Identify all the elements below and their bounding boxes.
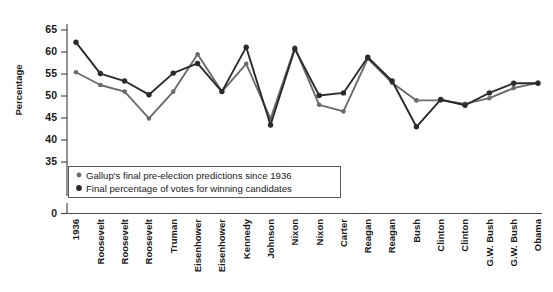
x-tick-label: Nixon bbox=[289, 219, 300, 246]
y-tick-zero-label: 0 bbox=[51, 207, 57, 219]
final-vote-point bbox=[171, 70, 176, 75]
x-tick-label: Roosevelt bbox=[143, 218, 154, 264]
legend: Gallup's final pre-election predictions … bbox=[69, 167, 341, 198]
y-tick-label-45: 45 bbox=[45, 111, 57, 123]
x-tick-label: Nixon bbox=[314, 219, 325, 246]
gallup-prediction-point bbox=[414, 98, 419, 103]
final-vote-point bbox=[341, 90, 346, 95]
final-vote-point bbox=[98, 71, 103, 76]
x-tick-label: Eisenhower bbox=[216, 219, 227, 273]
legend-marker-final-vote bbox=[76, 185, 82, 191]
gallup-prediction-point bbox=[341, 109, 346, 114]
x-tick-label: Johnson bbox=[265, 219, 276, 259]
gallup-prediction-point bbox=[195, 52, 200, 57]
line-chart: Percentage 35404550556065 0 Gallup's fin… bbox=[0, 0, 553, 292]
final-vote-point bbox=[511, 81, 516, 86]
x-tick-label: Kennedy bbox=[241, 218, 252, 259]
gallup-prediction-point bbox=[244, 62, 249, 67]
y-axis-title: Percentage bbox=[13, 64, 24, 115]
final-vote-point bbox=[195, 61, 200, 66]
gallup-prediction-point bbox=[487, 96, 492, 101]
x-tick-label: Roosevelt bbox=[119, 218, 130, 264]
y-axis-title-text: Percentage bbox=[13, 64, 24, 115]
x-tick-label: Clinton bbox=[459, 219, 470, 252]
gallup-prediction-point bbox=[98, 83, 103, 88]
final-vote-point bbox=[268, 122, 273, 127]
gallup-prediction-point bbox=[147, 116, 152, 121]
gallup-prediction-point bbox=[171, 89, 176, 94]
gallup-prediction-point bbox=[511, 86, 516, 91]
x-tick-label: Eisenhower bbox=[192, 219, 203, 273]
legend-label-gallup-prediction: Gallup's final pre-election predictions … bbox=[86, 170, 292, 181]
x-tick-label: Reagan bbox=[387, 219, 398, 254]
final-vote-point bbox=[244, 44, 249, 49]
final-vote-point bbox=[292, 46, 297, 51]
gallup-prediction-point bbox=[122, 89, 127, 94]
final-vote-point bbox=[389, 78, 394, 83]
x-tick-label: Truman bbox=[168, 219, 179, 254]
x-tick-label: Obama bbox=[532, 218, 543, 251]
chart-container: Percentage 35404550556065 0 Gallup's fin… bbox=[0, 0, 553, 292]
gallup-prediction-point bbox=[74, 70, 79, 75]
y-tick-label-35: 35 bbox=[45, 155, 57, 167]
x-tick-label: Roosevelt bbox=[95, 218, 106, 264]
final-vote-point bbox=[438, 97, 443, 102]
series-group bbox=[73, 40, 540, 130]
final-vote-point bbox=[73, 40, 78, 45]
x-tick-label: G.W. Bush bbox=[508, 219, 519, 267]
final-vote-point bbox=[122, 78, 127, 83]
final-vote-point bbox=[146, 92, 151, 97]
final-vote-point bbox=[316, 93, 321, 98]
y-tick-label-65: 65 bbox=[45, 23, 57, 35]
y-tick-label-55: 55 bbox=[45, 67, 57, 79]
x-tick-group: 1936RooseveltRooseveltRooseveltTrumanEis… bbox=[70, 218, 543, 272]
x-tick-label: Bush bbox=[411, 219, 422, 243]
final-vote-point bbox=[487, 90, 492, 95]
x-tick-label: G.W. Bush bbox=[484, 219, 495, 267]
gallup-prediction-point bbox=[317, 103, 322, 108]
y-tick-group: 35404550556065 bbox=[45, 23, 67, 167]
x-tick-label: 1936 bbox=[70, 219, 81, 240]
legend-marker-gallup-prediction bbox=[77, 173, 82, 178]
x-tick-label: Clinton bbox=[435, 219, 446, 252]
final-vote-point bbox=[219, 89, 224, 94]
y-tick-label-40: 40 bbox=[45, 133, 57, 145]
gallup-prediction-line bbox=[76, 48, 538, 119]
x-tick-label: Carter bbox=[338, 219, 349, 247]
final-vote-point bbox=[365, 55, 370, 60]
y-axis-zero: 0 bbox=[51, 207, 67, 219]
x-tick-label: Reagan bbox=[362, 219, 373, 254]
final-vote-point bbox=[535, 81, 540, 86]
final-vote-point bbox=[414, 124, 419, 129]
final-vote-point bbox=[462, 103, 467, 108]
legend-label-final-vote: Final percentage of votes for winning ca… bbox=[86, 183, 292, 194]
y-tick-label-60: 60 bbox=[45, 45, 57, 57]
y-tick-label-50: 50 bbox=[45, 89, 57, 101]
